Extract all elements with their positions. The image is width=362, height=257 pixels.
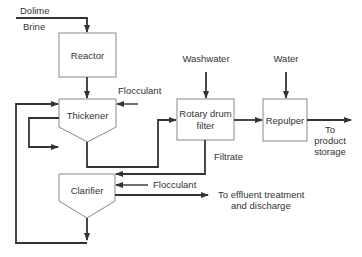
reactor-unit: Reactor — [59, 33, 116, 77]
dolime-label: Dolime — [20, 5, 50, 16]
reactor-label: Reactor — [71, 50, 104, 61]
product-label-line1: To — [325, 124, 335, 135]
clarifier-shape — [59, 174, 115, 218]
repulper-unit: Repulper — [263, 99, 307, 141]
product-label-line3: storage — [314, 146, 346, 157]
flocculant-thickener-label: Flocculant — [118, 85, 162, 96]
clarifier-label: Clarifier — [71, 185, 104, 196]
rotary-drum-filter-unit: Rotary drum filter — [177, 99, 234, 140]
brine-label: Brine — [23, 21, 45, 32]
repulper-label: Repulper — [266, 115, 305, 126]
effluent-label-line2: and discharge — [231, 200, 291, 211]
filtrate-arrow — [116, 140, 205, 174]
product-label-line2: product — [314, 135, 346, 146]
thickener-label: Thickener — [67, 110, 109, 121]
washwater-label: Washwater — [182, 53, 229, 64]
water-label: Water — [274, 53, 299, 64]
filtrate-label: Filtrate — [214, 151, 243, 162]
clarifier-unit: Clarifier — [59, 174, 115, 218]
filter-label-line1: Rotary drum — [179, 108, 231, 119]
thickener-unit: Thickener — [59, 99, 116, 142]
thickener-overflow-to-clarifier — [29, 118, 59, 147]
process-flow-diagram: Dolime Brine Reactor Thickener Flocculan… — [0, 0, 362, 257]
filter-label-line2: filter — [197, 120, 215, 131]
flocculant-clarifier-label: Flocculant — [153, 179, 197, 190]
effluent-label-line1: To effluent treatment — [218, 189, 305, 200]
